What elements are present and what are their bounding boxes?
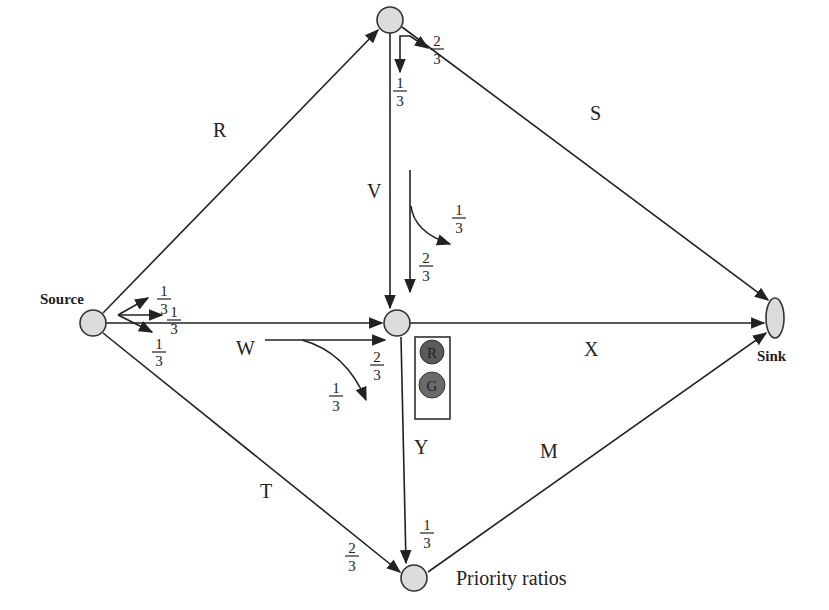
sink-label: Sink	[757, 348, 787, 364]
svg-text:3: 3	[422, 268, 430, 284]
svg-text:1: 1	[396, 75, 404, 91]
svg-text:1: 1	[455, 202, 463, 218]
green-light-label: G	[427, 378, 438, 394]
source-label: Source	[40, 291, 84, 307]
edge-label-X: X	[584, 338, 599, 360]
w-turn-arrows	[265, 340, 385, 400]
svg-text:3: 3	[455, 220, 463, 236]
edge-label-S: S	[590, 102, 601, 124]
fraction-v-turn: 1 3	[452, 202, 466, 236]
edge-T	[103, 333, 400, 572]
svg-text:2: 2	[422, 250, 430, 266]
edges	[103, 27, 768, 572]
top-split-arrows	[400, 36, 428, 72]
node-sink[interactable]	[766, 298, 784, 338]
svg-text:2: 2	[433, 33, 441, 49]
svg-text:3: 3	[348, 558, 356, 574]
edge-label-T: T	[260, 480, 272, 502]
edge-label-V: V	[367, 180, 382, 202]
edge-label-M: M	[540, 440, 558, 462]
node-source[interactable]	[80, 310, 106, 336]
node-center[interactable]	[384, 310, 410, 336]
fraction-top-down: 1 3	[393, 75, 407, 109]
svg-text:3: 3	[396, 93, 404, 109]
svg-text:1: 1	[160, 283, 168, 299]
svg-text:3: 3	[155, 353, 163, 369]
fraction-w-turn: 1 3	[329, 380, 343, 414]
source-split-arrows	[118, 298, 162, 332]
svg-text:3: 3	[160, 301, 168, 317]
edge-label-Y: Y	[414, 436, 428, 458]
svg-text:3: 3	[373, 367, 381, 383]
traffic-network-diagram: R G Source Sink Priority ratios R S V W …	[0, 0, 829, 610]
edge-label-W: W	[236, 337, 255, 359]
edge-Y	[401, 337, 406, 563]
svg-text:1: 1	[423, 517, 431, 533]
fraction-source-down: 1 3	[152, 336, 166, 369]
fraction-w-straight: 2 3	[370, 349, 384, 383]
traffic-light: R G	[415, 337, 450, 419]
svg-text:2: 2	[348, 540, 356, 556]
v-turn-arrows	[410, 170, 450, 292]
svg-text:1: 1	[332, 380, 340, 396]
fraction-bottom-from-y: 1 3	[420, 517, 434, 551]
svg-text:1: 1	[155, 336, 163, 352]
edge-M	[428, 333, 766, 572]
fraction-source-up: 1 3	[157, 283, 171, 317]
svg-text:3: 3	[433, 51, 441, 67]
svg-text:1: 1	[170, 304, 178, 320]
edge-S	[402, 27, 768, 300]
svg-text:2: 2	[373, 349, 381, 365]
svg-text:3: 3	[423, 535, 431, 551]
red-light-label: R	[427, 345, 437, 361]
fraction-source-mid: 1 3	[167, 304, 181, 337]
edge-label-R: R	[213, 119, 227, 141]
svg-text:3: 3	[170, 321, 178, 337]
fraction-v-straight: 2 3	[419, 250, 433, 284]
node-bottom[interactable]	[401, 565, 427, 591]
fraction-bottom-from-t: 2 3	[345, 540, 359, 574]
priority-ratios-label: Priority ratios	[456, 567, 567, 590]
svg-text:3: 3	[332, 398, 340, 414]
node-top[interactable]	[377, 7, 403, 33]
edge-R	[103, 30, 378, 313]
